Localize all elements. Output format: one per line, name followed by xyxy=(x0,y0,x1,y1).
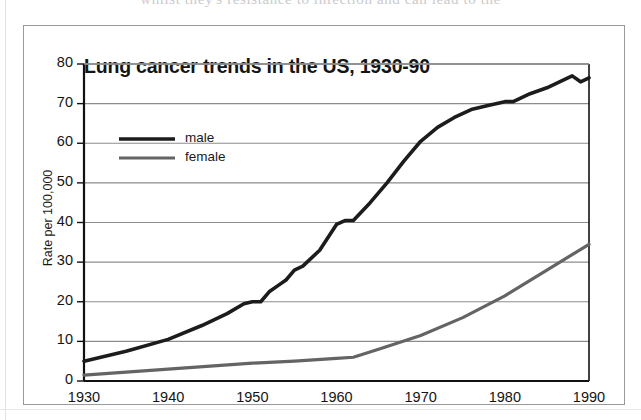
page-cutoff-text: whilst they's resistance to infection an… xyxy=(0,0,641,9)
series-line-male xyxy=(84,76,589,361)
page-bottom-rule xyxy=(0,409,641,410)
series-lines xyxy=(84,76,589,375)
legend-label-female: female xyxy=(185,149,226,164)
series-line-female xyxy=(84,244,589,375)
chart-plot xyxy=(24,26,626,406)
page-margin-rule xyxy=(5,0,6,420)
figure-frame: Lung cancer trends in the US, 1930-90 Ra… xyxy=(23,25,625,405)
gridlines xyxy=(84,64,589,341)
legend-label-male: male xyxy=(185,130,214,145)
legend xyxy=(119,139,175,158)
